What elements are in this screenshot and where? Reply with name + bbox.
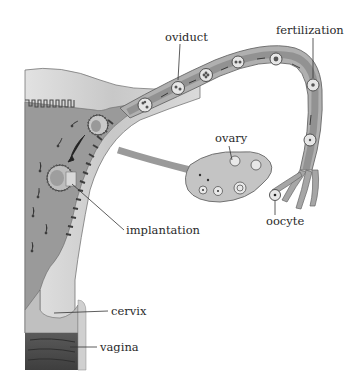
label-implantation: implantation (72, 184, 201, 237)
uterus (25, 68, 200, 370)
svg-text:vagina: vagina (99, 340, 139, 354)
ovarian-ligament (118, 150, 190, 170)
reproductive-tract-diagram: oviduct fertilization ovary implantation… (0, 0, 356, 383)
svg-text:fertilization: fertilization (276, 23, 344, 37)
svg-text:cervix: cervix (111, 304, 147, 318)
svg-text:oviduct: oviduct (165, 30, 208, 44)
svg-text:ovary: ovary (215, 131, 248, 145)
svg-text:implantation: implantation (126, 223, 201, 237)
oviduct (120, 46, 322, 170)
svg-text:oocyte: oocyte (266, 214, 304, 228)
fimbriae (272, 170, 319, 209)
oocyte (270, 190, 281, 201)
ovary (185, 152, 271, 202)
